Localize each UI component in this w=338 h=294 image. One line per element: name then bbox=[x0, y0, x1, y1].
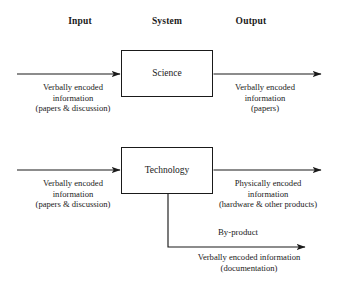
column-header-input: Input bbox=[68, 16, 92, 26]
system-diagram: Input System Output Science Technology V… bbox=[0, 0, 338, 294]
process-box-technology: Technology bbox=[121, 147, 213, 194]
caption-line: Physically encoded bbox=[219, 178, 317, 189]
label-by-product: By-product bbox=[218, 228, 258, 237]
caption-line: Verbally encoded bbox=[36, 82, 111, 93]
column-header-output: Output bbox=[236, 16, 267, 26]
caption-line: (papers) bbox=[235, 103, 295, 114]
caption-line: Verbally encoded information bbox=[198, 252, 301, 263]
caption-science-input: Verbally encoded information (papers & d… bbox=[36, 82, 111, 114]
process-box-science: Science bbox=[121, 50, 213, 97]
caption-line: Verbally encoded bbox=[36, 178, 111, 189]
caption-science-output: Verbally encoded information (papers) bbox=[235, 82, 295, 114]
caption-line: information bbox=[219, 189, 317, 200]
caption-byproduct-output: Verbally encoded information (documentat… bbox=[198, 252, 301, 273]
caption-line: (papers & discussion) bbox=[36, 103, 111, 114]
column-header-system: System bbox=[152, 16, 182, 26]
caption-line: information bbox=[36, 189, 111, 200]
caption-line: (documentation) bbox=[198, 263, 301, 274]
caption-line: (hardware & other products) bbox=[219, 199, 317, 210]
process-box-science-label: Science bbox=[152, 69, 182, 79]
caption-line: (papers & discussion) bbox=[36, 199, 111, 210]
caption-line: information bbox=[36, 93, 111, 104]
process-box-technology-label: Technology bbox=[145, 166, 190, 176]
caption-line: information bbox=[235, 93, 295, 104]
caption-technology-output: Physically encoded information (hardware… bbox=[219, 178, 317, 210]
caption-line: Verbally encoded bbox=[235, 82, 295, 93]
caption-technology-input: Verbally encoded information (papers & d… bbox=[36, 178, 111, 210]
